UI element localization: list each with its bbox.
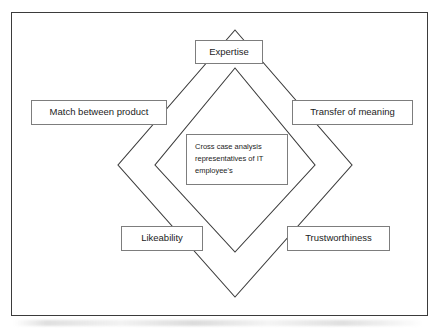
node-likeability-label: Likeability [141, 233, 183, 243]
node-expertise[interactable]: Expertise [195, 40, 263, 64]
node-transfer-of-meaning[interactable]: Transfer of meaning [292, 100, 413, 125]
node-likeability[interactable]: Likeability [121, 226, 203, 251]
node-trustworthiness[interactable]: Trustworthiness [287, 226, 390, 251]
center-label-line-2: representatives of IT [195, 153, 287, 165]
node-expertise-label: Expertise [209, 47, 249, 57]
node-match-between-product[interactable]: Match between product [31, 100, 167, 125]
node-transfer-of-meaning-label: Transfer of meaning [310, 107, 395, 117]
node-match-between-product-label: Match between product [50, 107, 149, 117]
figure-canvas: Expertise Match between product Transfer… [0, 0, 438, 328]
center-label-line-3: employee's [195, 165, 287, 177]
center-label-line-1: Cross case analysis [195, 141, 287, 153]
scan-artifact [14, 320, 424, 326]
center-label-box: Cross case analysis representatives of I… [186, 134, 288, 185]
node-trustworthiness-label: Trustworthiness [305, 233, 372, 243]
